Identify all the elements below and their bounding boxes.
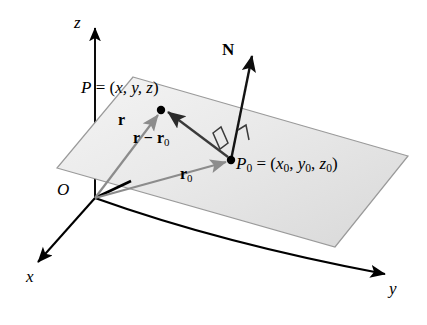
vector-r-minus-r0-label: r − r0 <box>133 130 169 148</box>
point-P0-dot <box>227 156 235 164</box>
vector-r-label: r <box>118 112 125 128</box>
point-P0-sep1: , <box>289 154 298 173</box>
point-P0-label: P0 = (x0, y0, z0) <box>236 155 338 175</box>
point-P0-paren: ) <box>332 154 338 173</box>
vector-r-minus-r0-label-text: r − r <box>133 129 164 146</box>
z-axis-label: z <box>74 14 81 31</box>
point-P0-sep2: , <box>311 154 320 173</box>
point-P-name: P <box>81 78 91 97</box>
plane-normal-vector-diagram: z x y O P = (x, y, z) P0 = (x0, y0, z0) … <box>0 0 427 325</box>
point-P-coords: x, y, z <box>115 78 153 97</box>
point-P-paren: ) <box>153 78 159 97</box>
x-axis-line <box>38 198 95 262</box>
diagram-canvas <box>0 0 427 325</box>
origin-label: O <box>57 181 69 198</box>
y-axis-label: y <box>389 280 397 297</box>
vector-r0-label: r0 <box>180 166 193 184</box>
vector-r-minus-r0-label-sub: 0 <box>164 136 169 148</box>
vector-N-label: N <box>222 41 234 58</box>
vector-r0-label-sub: 0 <box>187 172 192 184</box>
x-axis-label: x <box>26 268 34 285</box>
point-P-equals: = ( <box>91 78 115 97</box>
point-P0-equals: = ( <box>252 154 276 173</box>
point-P-dot <box>157 106 165 114</box>
point-P0-name: P <box>236 154 246 173</box>
point-P-label: P = (x, y, z) <box>81 79 159 96</box>
